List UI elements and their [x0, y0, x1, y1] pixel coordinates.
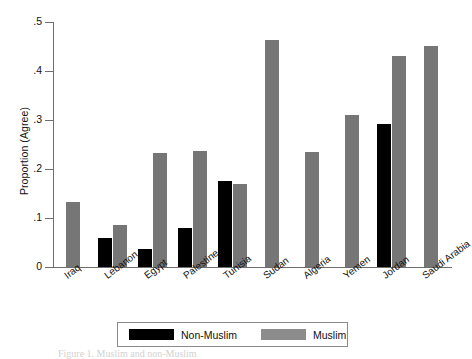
bar-muslim: [153, 153, 167, 267]
y-axis-tick: .3: [45, 120, 53, 121]
y-axis-tick: .2: [45, 169, 53, 170]
legend-item-muslim[interactable]: Muslim: [261, 323, 346, 346]
y-axis-tick: .5: [45, 22, 53, 23]
y-axis-tick-label: 0: [36, 260, 42, 272]
bar-non-muslim: [178, 228, 192, 267]
legend-swatch-non-muslim: [129, 329, 174, 340]
bar-muslim: [392, 56, 406, 267]
bar-muslim: [193, 151, 207, 267]
y-axis-tick-label: .3: [33, 113, 42, 125]
y-axis-tick: .1: [45, 218, 53, 219]
bar-muslim: [424, 46, 438, 267]
figure-caption: Figure 1. Muslim and non-Muslim: [58, 348, 418, 359]
bar-non-muslim: [377, 124, 391, 267]
legend-swatch-muslim: [261, 329, 306, 340]
y-axis-tick: 0: [45, 267, 53, 268]
bar-muslim: [345, 115, 359, 267]
y-axis-tick-label: .2: [33, 162, 42, 174]
y-axis-tick-label: .4: [33, 64, 42, 76]
legend-item-non-muslim[interactable]: Non-Muslim: [129, 323, 237, 346]
legend-label-non-muslim: Non-Muslim: [181, 329, 237, 341]
bar-muslim: [66, 202, 80, 267]
bar-non-muslim: [98, 238, 112, 267]
plot-area: [53, 22, 451, 267]
y-axis-tick-label: .5: [33, 15, 42, 27]
y-axis-tick-label: .1: [33, 211, 42, 223]
y-axis-label: Proportion (Agree): [18, 61, 30, 241]
legend-label-muslim: Muslim: [313, 329, 346, 341]
y-axis-tick: .4: [45, 71, 53, 72]
bar-muslim: [265, 40, 279, 267]
bar-muslim: [305, 152, 319, 267]
chart-legend: Non-Muslim Muslim: [117, 322, 348, 347]
